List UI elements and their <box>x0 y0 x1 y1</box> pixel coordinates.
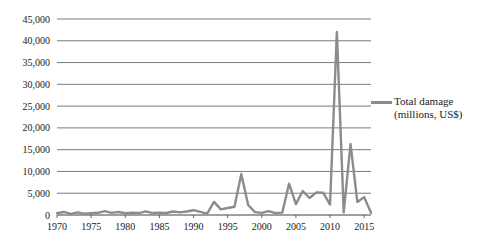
y-axis-label: 30,000 <box>23 79 51 90</box>
x-axis-label: 1985 <box>149 221 169 232</box>
x-axis-label: 2015 <box>354 221 374 232</box>
legend-label-line1: Total damage <box>394 95 453 107</box>
chart-container: 05,00010,00015,00020,00025,00030,00035,0… <box>0 0 478 248</box>
x-axis-label: 1975 <box>81 221 101 232</box>
x-axis-label: 1995 <box>218 221 238 232</box>
x-axis-label: 2000 <box>252 221 272 232</box>
y-axis-label: 10,000 <box>23 166 51 177</box>
x-axis-label: 1990 <box>184 221 204 232</box>
x-axis-label: 1980 <box>115 221 135 232</box>
legend-line-swatch <box>371 101 392 104</box>
total-damage-line <box>57 32 371 214</box>
legend-label-line2: (millions, US$) <box>394 108 462 120</box>
y-axis-label: 45,000 <box>23 14 51 25</box>
line-chart: 05,00010,00015,00020,00025,00030,00035,0… <box>0 0 478 248</box>
x-axis-label: 1970 <box>47 221 67 232</box>
gridlines <box>57 19 371 215</box>
legend: Total damage (millions, US$) <box>371 95 462 121</box>
y-axis-label: 40,000 <box>23 35 51 46</box>
y-axis-label: 35,000 <box>23 57 51 68</box>
x-axis-label: 2005 <box>286 221 306 232</box>
x-axis-label: 2010 <box>320 221 340 232</box>
y-axis-label: 0 <box>45 210 50 221</box>
x-axis-labels: 1970197519801985199019952000200520102015 <box>47 221 374 232</box>
legend-label: Total damage (millions, US$) <box>394 95 462 121</box>
y-axis-label: 25,000 <box>23 101 51 112</box>
y-axis-label: 20,000 <box>23 122 51 133</box>
y-axis-label: 5,000 <box>28 188 51 199</box>
y-axis-labels: 05,00010,00015,00020,00025,00030,00035,0… <box>23 14 51 221</box>
y-axis-label: 15,000 <box>23 144 51 155</box>
